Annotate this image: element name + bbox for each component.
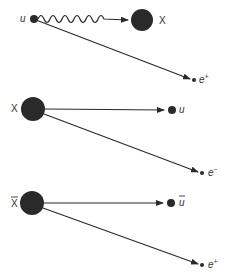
positron-label: e+ [199,73,209,85]
u-quark-label: u [179,104,185,115]
x-boson-particle [21,97,45,121]
panel-2: X u e− [11,97,218,178]
wavy-boson-line [38,16,128,23]
arrow-to-positron [43,208,198,264]
x-boson-particle [131,9,153,31]
anti-x-boson-particle [20,191,44,215]
positron-particle [192,78,196,82]
positron-label: e+ [208,258,218,270]
panel-3: X u e+ [11,191,218,270]
u-quark-label: u [20,13,26,24]
x-boson-label: X [159,15,166,26]
electron-particle [200,171,204,175]
arrow-to-positron [36,20,190,79]
anti-u-quark-label: u [179,197,185,208]
u-quark-particle [168,106,176,114]
decay-diagram: u X e+ X u e− X u e+ [0,0,230,280]
anti-x-boson-label: X [11,198,18,209]
anti-u-quark-particle [167,199,175,207]
electron-label: e− [208,166,218,178]
positron-particle [200,263,204,267]
arrow-to-electron [44,114,198,172]
arrow-to-u-quark [45,109,164,110]
panel-1: u X e+ [20,9,209,85]
u-quark-particle [30,15,38,23]
x-boson-label: X [11,103,18,114]
